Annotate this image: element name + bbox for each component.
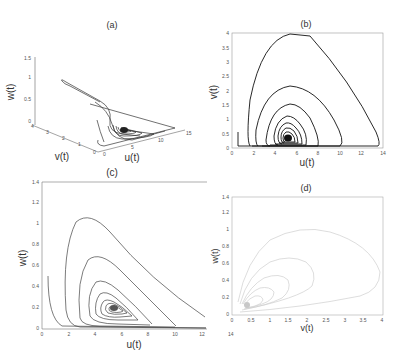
svg-text:3: 3 [344, 317, 347, 323]
panel-b: (b) 0 0.5 1 1.5 2 2.5 3 3.5 4 0 2 4 6 8 … [208, 19, 386, 168]
svg-text:6: 6 [121, 331, 124, 337]
svg-text:0: 0 [36, 325, 39, 331]
svg-text:1: 1 [226, 226, 229, 232]
svg-text:1.4: 1.4 [32, 179, 39, 185]
svg-text:12: 12 [199, 331, 205, 337]
svg-text:4: 4 [31, 123, 34, 129]
panel-c: (c) 0 0.2 0.4 0.6 0.8 1 1.2 1.4 0 2 4 6 … [17, 167, 207, 350]
panel-c-ylabel: w(t) [17, 250, 28, 268]
panel-a-xlabel: u(t) [125, 152, 140, 163]
svg-text:2: 2 [253, 150, 256, 156]
figure-canvas: (a) 1.5 1 0.5 0 4 3 2 1 0 0 5 10 15 w [0, 0, 401, 364]
svg-text:15: 15 [186, 130, 192, 136]
svg-text:4: 4 [94, 331, 97, 337]
panel-c-orbits [48, 218, 206, 328]
svg-text:1.5: 1.5 [285, 317, 292, 323]
svg-text:4: 4 [381, 317, 384, 323]
panel-d-y-ticks: 0 0.2 0.4 0.6 0.8 1 1.2 1.4 [222, 194, 229, 317]
svg-text:0.5: 0.5 [248, 317, 255, 323]
svg-text:12: 12 [358, 150, 364, 156]
svg-text:0.4: 0.4 [222, 277, 229, 283]
panel-d-equilibrium [244, 302, 250, 308]
svg-text:0.8: 0.8 [32, 241, 39, 247]
svg-text:4: 4 [274, 150, 277, 156]
svg-text:1: 1 [269, 317, 272, 323]
svg-text:1.5: 1.5 [24, 55, 31, 61]
svg-text:0.4: 0.4 [32, 283, 39, 289]
panel-c-xlabel: u(t) [127, 339, 142, 350]
svg-text:2.5: 2.5 [222, 73, 229, 79]
svg-text:0.5: 0.5 [24, 96, 31, 102]
panel-b-equilibrium [284, 135, 292, 142]
panel-b-y-ticks: 0 0.5 1 1.5 2 2.5 3 3.5 4 [222, 30, 229, 151]
svg-text:0.6: 0.6 [222, 260, 229, 266]
svg-text:1: 1 [226, 116, 229, 122]
svg-text:3: 3 [226, 59, 229, 65]
svg-text:3.5: 3.5 [222, 45, 229, 51]
panel-a-title: (a) [107, 20, 118, 30]
panel-d-title: (d) [301, 183, 312, 193]
panel-b-ylabel: v(t) [208, 85, 219, 99]
svg-text:1: 1 [36, 220, 39, 226]
svg-text:2.5: 2.5 [323, 317, 330, 323]
svg-text:1.2: 1.2 [32, 199, 39, 205]
svg-text:0: 0 [231, 317, 234, 323]
svg-text:6: 6 [296, 150, 299, 156]
panel-b-orbits [238, 34, 379, 146]
svg-text:2: 2 [68, 331, 71, 337]
svg-text:2: 2 [62, 135, 65, 141]
svg-text:2: 2 [226, 88, 229, 94]
svg-text:1.5: 1.5 [222, 102, 229, 108]
panel-c-x-ticks: 0 2 4 6 8 10 12 [41, 331, 205, 337]
panel-d-ylabel: w(t) [210, 249, 220, 265]
svg-text:8: 8 [147, 331, 150, 337]
panel-a: (a) 1.5 1 0.5 0 4 3 2 1 0 0 5 10 15 w [5, 20, 192, 163]
svg-text:1: 1 [78, 141, 81, 147]
svg-text:10: 10 [337, 150, 343, 156]
svg-text:1.4: 1.4 [222, 194, 229, 200]
svg-text:0.2: 0.2 [32, 304, 39, 310]
svg-text:3.5: 3.5 [360, 317, 367, 323]
svg-text:1: 1 [28, 74, 31, 80]
stray-tick-label: 14 [228, 331, 234, 337]
svg-text:0: 0 [103, 151, 106, 157]
svg-text:0: 0 [226, 145, 229, 151]
panel-b-frame [232, 33, 383, 148]
panel-b-title: (b) [301, 19, 312, 29]
panel-b-x-ticks: 0 2 4 6 8 10 12 14 [231, 150, 386, 156]
svg-text:0: 0 [93, 149, 96, 155]
panel-c-y-ticks: 0 0.2 0.4 0.6 0.8 1 1.2 1.4 [32, 179, 39, 331]
svg-text:5: 5 [131, 144, 134, 150]
svg-text:3: 3 [46, 129, 49, 135]
panel-a-equilibrium [120, 127, 128, 133]
panel-a-z-ticks: 1.5 1 0.5 0 [24, 55, 31, 124]
panel-d-xlabel: v(t) [301, 323, 314, 333]
svg-text:0.6: 0.6 [32, 262, 39, 268]
panel-b-xlabel: u(t) [300, 157, 315, 168]
svg-text:14: 14 [380, 150, 386, 156]
svg-text:10: 10 [158, 137, 164, 143]
panel-c-title: (c) [106, 167, 118, 178]
panel-a-zlabel: w(t) [5, 84, 16, 102]
panel-d: (d) 0 0.2 0.4 0.6 0.8 1 1.2 1.4 0 0.5 1 … [210, 183, 384, 333]
svg-text:0.8: 0.8 [222, 243, 229, 249]
panel-d-orbits [238, 229, 380, 312]
panel-d-frame [232, 197, 383, 315]
panel-a-u-ticks: 0 5 10 15 [103, 130, 192, 157]
svg-text:4: 4 [226, 30, 229, 36]
svg-text:0: 0 [226, 311, 229, 317]
svg-text:0.2: 0.2 [222, 294, 229, 300]
svg-text:1.2: 1.2 [222, 209, 229, 215]
panel-a-ylabel: v(t) [55, 151, 69, 162]
svg-text:0: 0 [41, 331, 44, 337]
svg-text:0: 0 [231, 150, 234, 156]
svg-text:0.5: 0.5 [222, 131, 229, 137]
svg-text:10: 10 [172, 331, 178, 337]
svg-text:8: 8 [317, 150, 320, 156]
panel-c-equilibrium [110, 305, 118, 311]
